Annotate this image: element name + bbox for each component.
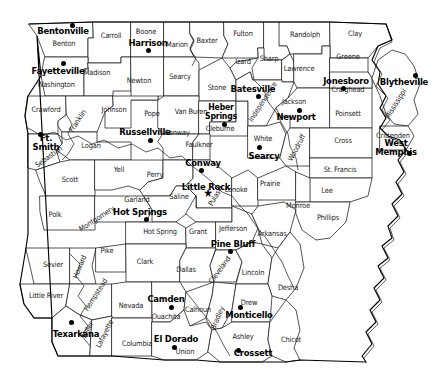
city-dot-icon: [70, 23, 75, 28]
city-dot-icon: [236, 348, 241, 353]
city-dot-icon: [172, 345, 177, 350]
city-dot-icon: [341, 86, 346, 91]
city-dot-icon: [256, 94, 261, 99]
city-dot-icon: [61, 61, 66, 66]
city-dot-icon: [38, 132, 43, 137]
county-boundaries: [20, 22, 420, 362]
city-dot-icon: [148, 138, 153, 143]
capital-star-icon: ★: [203, 188, 214, 199]
city-dot-icon: [228, 249, 233, 254]
city-dot-icon: [169, 305, 174, 310]
map-vector-layer: [0, 0, 448, 388]
city-dot-icon: [257, 145, 262, 150]
city-dot-icon: [199, 168, 204, 173]
city-dot-icon: [297, 108, 302, 113]
city-dot-icon: [69, 320, 74, 325]
city-dot-icon: [222, 122, 227, 127]
arkansas-county-map: BentonCarrollBooneMarionBaxterFultonRand…: [0, 0, 448, 388]
city-dot-icon: [146, 48, 151, 53]
city-dot-icon: [144, 217, 149, 222]
city-dot-icon: [407, 151, 412, 156]
city-dot-icon: [238, 305, 243, 310]
city-dot-icon: [413, 73, 418, 78]
